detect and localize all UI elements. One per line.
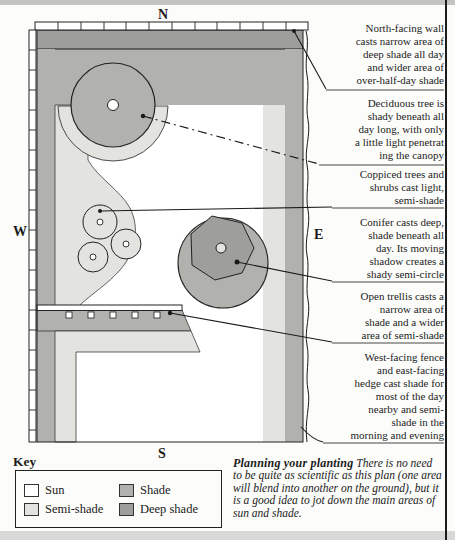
annotation-conifer: Conifer casts deep, shade beneath all da…: [302, 216, 444, 281]
caption-planning-your-planting: Planning your planting There is no need …: [233, 457, 442, 519]
key-box: Sun Semi-shade Shade Deep shade: [15, 470, 222, 528]
annotation-north-wall: North-facing wall casts narrow area of d…: [302, 22, 444, 87]
coppice-trunk-2: [123, 241, 129, 247]
conifer-trunk: [216, 243, 226, 253]
coppice-trunk-3: [90, 254, 96, 260]
coppice-trunk-1: [97, 219, 103, 225]
compass-south: S: [158, 447, 166, 461]
annotation-deciduous-tree: Deciduous tree is shady beneath all day …: [302, 97, 444, 162]
annotation-fence-hedge: West-facing fence and east-facing hedge …: [302, 351, 444, 442]
key-title: Key: [13, 454, 36, 470]
deciduous-tree: [71, 63, 155, 147]
north-fence: [35, 22, 308, 30]
west-fence-shade-strip: [37, 49, 55, 442]
sun-swatch: [24, 484, 39, 497]
semi-shade-swatch: [24, 503, 39, 516]
compass-west: W: [13, 225, 27, 239]
key-label: Semi-shade: [45, 502, 103, 517]
caption-lead: Planning your planting: [233, 456, 353, 470]
deep-shade-swatch: [119, 503, 134, 516]
key-item-deep-shade: Deep shade: [119, 502, 198, 517]
shade-swatch: [119, 484, 134, 497]
trellis-rail: [37, 305, 182, 311]
east-hedge-shade-strip: [285, 49, 303, 442]
key-label: Shade: [140, 483, 171, 498]
annotation-open-trellis: Open trellis casts a narrow area of shad…: [302, 290, 444, 342]
annotation-coppiced-trees: Coppiced trees and shrubs cast light, se…: [302, 168, 444, 207]
book-page: N W E S North-facing wall casts narrow a…: [0, 0, 455, 540]
deciduous-tree-trunk: [108, 100, 119, 111]
north-wall-deep-shade-strip: [37, 30, 303, 49]
key-item-sun: Sun: [24, 483, 64, 498]
key-label: Deep shade: [140, 502, 198, 517]
key-item-semi-shade: Semi-shade: [24, 502, 103, 517]
key-item-shade: Shade: [119, 483, 171, 498]
compass-north: N: [158, 8, 168, 22]
west-fence: [29, 30, 36, 442]
key-label: Sun: [45, 483, 64, 498]
